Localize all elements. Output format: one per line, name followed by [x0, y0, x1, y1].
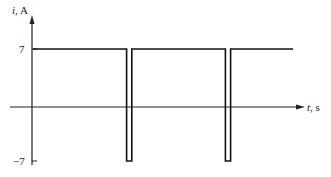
y-tick-label-neg7: −7: [13, 155, 25, 167]
y-axis-arrow-icon: [30, 15, 35, 24]
x-axis-label: t, s: [307, 101, 320, 113]
waveform-line: [33, 49, 293, 161]
y-axis-label: i, A: [12, 4, 28, 16]
y-tick-label-pos7: 7: [19, 43, 25, 55]
pulse-waveform-chart: i, A t, s 7 −7: [0, 0, 331, 177]
x-axis-arrow-icon: [296, 105, 305, 110]
